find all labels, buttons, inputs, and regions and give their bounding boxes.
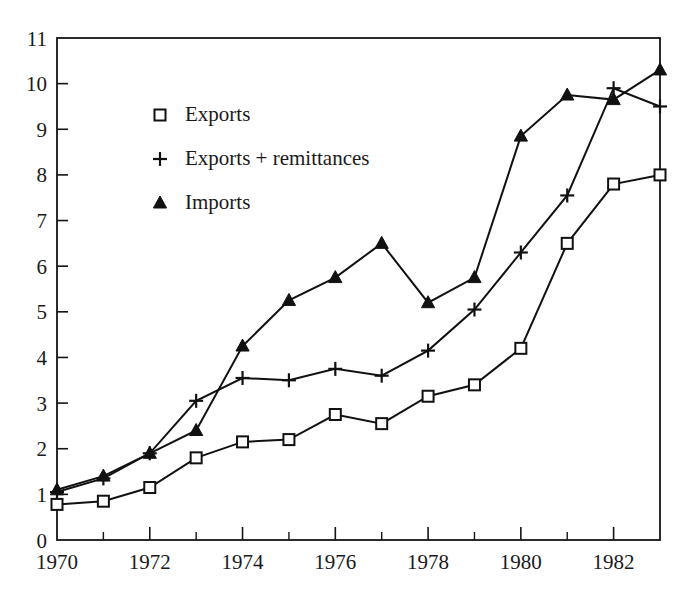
y-tick-label: 9	[37, 118, 48, 142]
y-tick-label: 7	[37, 209, 48, 233]
chart-figure: 01234567891011 1970197219741976197819801…	[0, 0, 693, 603]
datapoint-square-marker	[515, 343, 526, 354]
y-tick-label: 0	[37, 529, 48, 553]
plot-frame	[57, 38, 660, 540]
datapoint-triangle-marker	[329, 271, 342, 283]
y-tick-label: 1	[37, 483, 48, 507]
y-tick-label: 5	[37, 300, 48, 324]
x-tick-label: 1978	[407, 550, 449, 574]
legend-item-exports-remittances: Exports + remittances	[153, 146, 369, 170]
y-axis-ticks	[57, 84, 68, 495]
line-chart: 01234567891011 1970197219741976197819801…	[0, 0, 693, 603]
legend-item-exports: Exports	[155, 102, 251, 126]
datapoint-square-marker	[655, 169, 666, 180]
datapoint-triangle-marker	[282, 293, 295, 305]
datapoint-square-marker	[98, 496, 109, 507]
chart-legend: ExportsExports + remittancesImports	[153, 102, 369, 214]
legend-item-label: Imports	[185, 190, 250, 214]
datapoint-square-marker	[469, 379, 480, 390]
datapoint-square-marker	[608, 179, 619, 190]
legend-square-marker	[155, 110, 166, 121]
datapoint-square-marker	[283, 434, 294, 445]
y-tick-label: 6	[37, 255, 48, 279]
datapoint-square-marker	[423, 391, 434, 402]
series-line-path	[57, 70, 660, 490]
y-tick-label: 3	[37, 392, 48, 416]
y-tick-label: 10	[26, 72, 47, 96]
y-tick-label: 2	[37, 437, 48, 461]
legend-item-imports: Imports	[153, 190, 250, 214]
datapoint-square-marker	[376, 418, 387, 429]
datapoint-plus-marker	[328, 362, 342, 376]
datapoint-plus-marker	[375, 369, 389, 383]
legend-item-label: Exports	[185, 102, 250, 126]
datapoint-triangle-marker	[468, 271, 481, 283]
datapoint-triangle-marker	[190, 423, 203, 435]
series-exports	[52, 169, 666, 509]
y-tick-label: 11	[27, 27, 47, 51]
datapoint-square-marker	[562, 238, 573, 249]
x-tick-label: 1982	[593, 550, 635, 574]
x-axis-ticks	[103, 527, 613, 540]
legend-plus-marker	[153, 152, 167, 166]
datapoint-triangle-marker	[653, 63, 666, 75]
y-tick-label: 4	[37, 346, 48, 370]
legend-item-label: Exports + remittances	[185, 146, 369, 170]
y-tick-label: 8	[37, 163, 48, 187]
datapoint-plus-marker	[282, 373, 296, 387]
series-imports	[50, 63, 666, 495]
x-tick-label: 1974	[222, 550, 265, 574]
datapoint-square-marker	[52, 499, 63, 510]
datapoint-plus-marker	[653, 99, 667, 113]
y-axis-tick-labels: 01234567891011	[26, 27, 48, 553]
series-exports-remittances	[50, 81, 667, 499]
datapoint-square-marker	[144, 482, 155, 493]
datapoint-triangle-marker	[561, 88, 574, 100]
x-axis-tick-labels: 1970197219741976197819801982	[36, 550, 635, 574]
x-tick-label: 1976	[314, 550, 356, 574]
x-tick-label: 1980	[500, 550, 542, 574]
x-tick-label: 1972	[129, 550, 171, 574]
datapoint-square-marker	[191, 452, 202, 463]
datapoint-square-marker	[237, 436, 248, 447]
x-tick-label: 1970	[36, 550, 78, 574]
data-series-layer	[50, 63, 667, 510]
datapoint-plus-marker	[236, 371, 250, 385]
legend-triangle-marker	[153, 196, 166, 208]
datapoint-triangle-marker	[375, 236, 388, 248]
datapoint-square-marker	[330, 409, 341, 420]
